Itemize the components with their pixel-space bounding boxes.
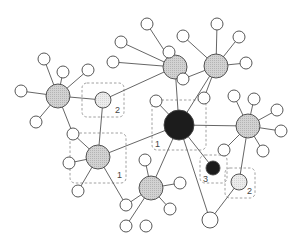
leaf-node [139, 154, 151, 166]
leaf-node [15, 85, 27, 97]
leaf-node [57, 66, 69, 78]
cluster-label: 2 [115, 105, 120, 115]
leaf-node [82, 64, 94, 76]
hub-node [139, 176, 163, 200]
leaf-node [233, 31, 245, 43]
leaf-node [163, 46, 175, 58]
leaf-node [141, 18, 153, 30]
dark-node [206, 161, 220, 175]
leaf-node [218, 144, 230, 156]
leaf-node [271, 104, 283, 116]
leaf-node [240, 57, 252, 69]
leaf-node [228, 90, 240, 102]
network-diagram: 21132 [0, 0, 303, 242]
leaf-node [211, 18, 223, 30]
leaf-node [140, 220, 152, 232]
leaf-node [115, 36, 127, 48]
leaf-node [198, 92, 210, 104]
light-node [95, 92, 111, 108]
leaf-node [30, 116, 42, 128]
hub-node [236, 114, 260, 138]
leaf-node [177, 73, 189, 85]
leaf-node [120, 199, 132, 211]
cluster-label: 1 [155, 139, 160, 149]
leaf-node [248, 93, 260, 105]
leaf-node [38, 53, 50, 65]
leaf-node [107, 56, 119, 68]
leaf-node [63, 157, 75, 169]
cluster-label: 1 [117, 170, 122, 180]
leaf-node [150, 95, 162, 107]
leaf-node [257, 145, 269, 157]
dark-node [164, 110, 194, 140]
leaf-node [177, 30, 189, 42]
leaf-node [164, 203, 176, 215]
hub-node [46, 84, 70, 108]
leaf-node [275, 125, 287, 137]
cluster-label: 3 [203, 174, 208, 184]
leaf-node [72, 185, 84, 197]
cluster-label: 2 [247, 186, 252, 196]
node-group [15, 18, 287, 232]
leaf-node [202, 212, 218, 228]
leaf-node [67, 128, 79, 140]
light-node [231, 174, 247, 190]
leaf-node [174, 177, 186, 189]
hub-node [204, 54, 228, 78]
hub-node [86, 145, 110, 169]
leaf-node [120, 220, 132, 232]
